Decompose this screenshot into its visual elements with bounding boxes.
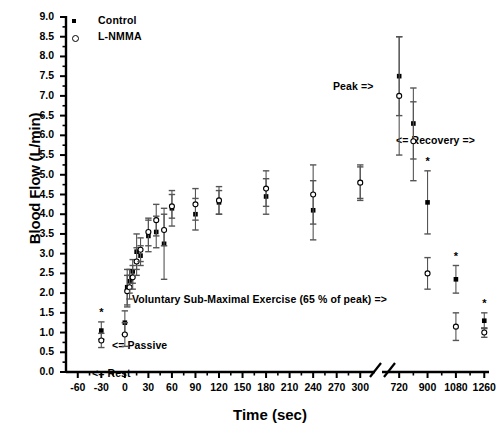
significance-asterisk: * [99,306,104,318]
data-point-l-nmma [162,228,167,233]
data-point-control [482,318,487,323]
data-point-l-nmma [311,192,316,197]
data-point-control [454,277,459,282]
data-point-l-nmma [397,93,402,98]
data-point-l-nmma [217,198,222,203]
data-point-l-nmma [264,186,269,191]
data-point-l-nmma [99,338,104,343]
data-point-l-nmma [411,139,416,144]
data-point-l-nmma [146,229,151,234]
significance-asterisk: * [425,155,430,167]
data-point-l-nmma [482,330,487,335]
data-point-control [425,200,430,205]
data-point-l-nmma [122,332,127,337]
plot-area: **** [0,0,502,442]
data-point-l-nmma [169,204,174,209]
axis-break-slash-1 [370,363,381,377]
axis-break-slash-2 [384,363,395,377]
data-point-l-nmma [453,324,458,329]
data-point-l-nmma [358,180,363,185]
data-point-l-nmma [154,218,159,223]
significance-asterisk: * [482,297,487,309]
data-point-l-nmma [193,202,198,207]
blood-flow-time-chart: Blood Flow (L/min) Time (sec) 0.00.51.01… [0,0,502,442]
data-point-control [99,328,104,333]
significance-asterisk: * [454,250,459,262]
data-point-l-nmma [425,271,430,276]
data-point-l-nmma [138,247,143,252]
